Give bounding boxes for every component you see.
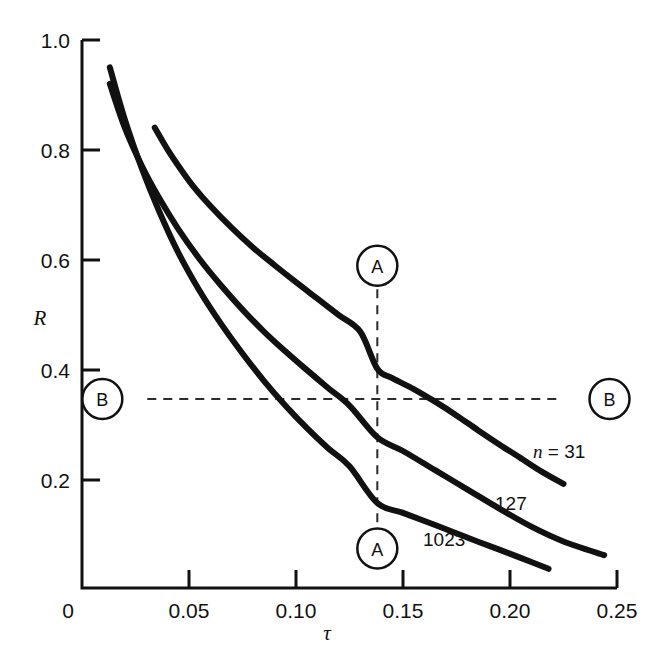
y-axis-title: R — [33, 306, 47, 330]
x-tick-marks — [189, 570, 510, 588]
callout-a-top: A — [357, 246, 397, 286]
curve-label-1023: 1023 — [423, 529, 465, 550]
x-axis-title: τ — [323, 621, 332, 645]
curve-label-n-rest: = 31 — [543, 441, 586, 462]
ytick-label-0.6: 0.6 — [41, 249, 70, 272]
callout-b-right-letter: B — [604, 390, 616, 410]
ytick-label-0.8: 0.8 — [41, 139, 70, 162]
callout-b-left: B — [82, 379, 122, 419]
xtick-label-0.05: 0.05 — [169, 599, 210, 622]
xtick-label-0.25: 0.25 — [597, 599, 638, 622]
curve-n-1023 — [110, 67, 549, 568]
x-tick-labels: 0 0.05 0.10 0.15 0.20 0.25 — [62, 599, 637, 622]
axis-lines — [82, 40, 617, 588]
axis-frame — [82, 40, 617, 588]
callout-b-left-letter: B — [96, 390, 108, 410]
curve-label-127: 127 — [495, 493, 527, 514]
y-tick-labels: 1.0 0.8 0.6 0.4 0.2 — [41, 29, 71, 492]
callout-a-top-letter: A — [371, 257, 383, 277]
curve-n-31 — [155, 128, 564, 484]
xtick-label-0.15: 0.15 — [383, 599, 424, 622]
callout-markers: A A B B — [82, 246, 629, 569]
xtick-label-0.20: 0.20 — [490, 599, 531, 622]
callout-b-right: B — [590, 379, 630, 419]
curve-label-n-31: n = 31 — [533, 441, 585, 462]
chart-page: 1.0 0.8 0.6 0.4 0.2 0 0.05 0.10 0.15 0.2… — [0, 0, 653, 665]
line-chart: 1.0 0.8 0.6 0.4 0.2 0 0.05 0.10 0.15 0.2… — [0, 0, 653, 665]
curve-labels: n = 31 127 1023 — [423, 441, 585, 550]
curve-label-n-italic: n — [533, 441, 543, 462]
xtick-label-0.10: 0.10 — [276, 599, 317, 622]
ytick-label-1.0: 1.0 — [41, 29, 70, 52]
data-curves — [110, 67, 604, 568]
ytick-label-0.2: 0.2 — [41, 469, 70, 492]
y-tick-marks — [82, 150, 100, 480]
ytick-label-0.4: 0.4 — [41, 359, 71, 382]
callout-a-bottom-letter: A — [371, 540, 383, 560]
xtick-label-0: 0 — [62, 599, 74, 622]
curve-n-127 — [110, 84, 604, 555]
callout-a-bottom: A — [357, 529, 397, 569]
